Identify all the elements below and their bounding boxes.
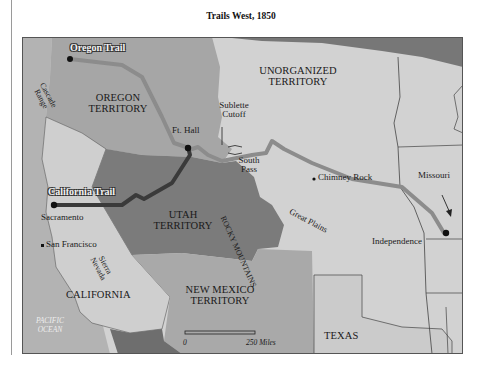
sublette-cutoff-label: Sublette Cutoff [214, 101, 254, 120]
oregon-territory-label: OREGON TERRITORY [86, 92, 150, 115]
ft-hall-label: Ft. Hall [172, 126, 200, 135]
oregon-trail-endpoint [67, 56, 73, 62]
map-title: Trails West, 1850 [0, 11, 482, 21]
california-label: CALIFORNIA [66, 290, 131, 301]
new-mexico-territory-label: NEW MEXICO TERRITORY [180, 284, 260, 307]
san-francisco-label: San Francisco [46, 240, 97, 249]
oregon-trail-label: Oregon Trail [70, 43, 125, 53]
unorganized-territory-label: UNORGANIZED TERRITORY [250, 65, 346, 88]
sacramento-point [51, 202, 57, 208]
independence-label: Independence [372, 237, 422, 246]
ft-hall-point [185, 145, 191, 151]
trails-west-map: OREGON TERRITORY UNORGANIZED TERRITORY U… [22, 37, 463, 354]
independence-point [443, 230, 449, 236]
south-pass-label: South Pass [234, 156, 264, 174]
texas-label: TEXAS [324, 331, 358, 342]
utah-territory-label: UTAH TERRITORY [150, 209, 216, 232]
sacramento-label: Sacramento [41, 213, 83, 222]
page-left-rule [11, 0, 12, 355]
chimney-rock-point [312, 177, 315, 180]
scale-end-label: 250 Miles [246, 339, 276, 347]
california-trail-label: California Trail [48, 187, 115, 197]
san-francisco-point [41, 244, 44, 247]
scale-start-label: 0 [183, 339, 187, 347]
chimney-rock-label: Chimney Rock [318, 173, 372, 182]
pacific-ocean-label: PACIFIC OCEAN [30, 317, 70, 334]
missouri-label: Missouri [418, 171, 450, 180]
